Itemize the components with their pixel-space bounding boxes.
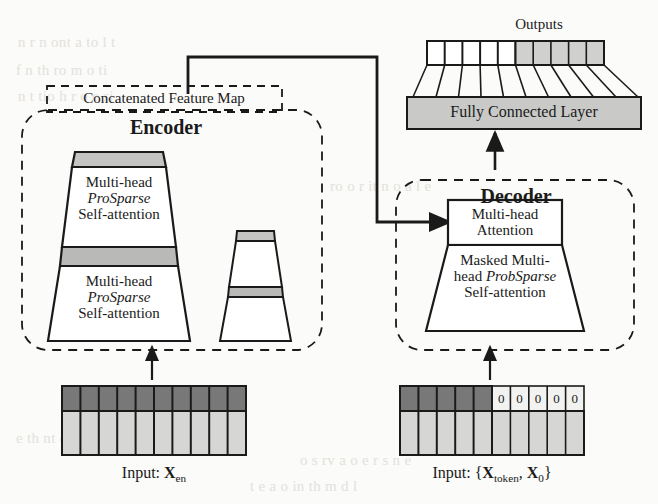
decoder-attention-line1: Multi-head [472, 206, 539, 222]
decoder-input-caption-var1: X [482, 464, 494, 481]
decoder-input-caption-prefix: Input: [432, 464, 474, 481]
decoder-input-zero-cell: 0 [529, 392, 547, 405]
decoder-attention-line2: Attention [472, 222, 539, 238]
diagram-vector-layer [0, 0, 658, 504]
decoder-attention-text: Multi-head Attention [472, 206, 539, 238]
decoder-masked-text: Masked Multi- head ProbSparse Self-atten… [454, 252, 556, 301]
encoder-block-1-text: Multi-head ProSparse Self-attention [78, 174, 160, 223]
encoder-input-caption: Input: Xen [122, 464, 186, 484]
encoder-input-grid [62, 386, 246, 455]
decoder-masked-line2-b: ProbSparse [486, 268, 556, 284]
outputs-label: Outputs [515, 16, 563, 32]
encoder-block-2-line3: Self-attention [78, 305, 160, 321]
decoder-input-zero-cell: 0 [547, 392, 565, 405]
figure-canvas: n r n ont a to l tf n th ro m o tin t ti… [0, 0, 658, 504]
encoder-input-caption-prefix: Input: [122, 464, 164, 481]
encoder-block-1-line2: ProSparse [78, 190, 160, 206]
decoder-input-zero-cell: 0 [492, 392, 510, 405]
outputs-row [427, 41, 604, 65]
decoder-input-zero-cell: 0 [566, 392, 584, 405]
concatenated-feature-map-label: Concatenated Feature Map [83, 90, 245, 106]
encoder-input-caption-var: X [164, 464, 176, 481]
decoder-masked-line3: Self-attention [454, 284, 556, 300]
connector-encoder-to-decoder [188, 57, 449, 222]
decoder-masked-line2-a: head [454, 268, 486, 284]
decoder-input-caption-sub1: token [494, 472, 519, 484]
encoder-block-2-line1: Multi-head [78, 273, 160, 289]
decoder-input-zero-cell: 0 [510, 392, 528, 405]
decoder-masked-line2: head ProbSparse [454, 268, 556, 284]
encoder-title: Encoder [130, 117, 202, 139]
decoder-input-caption: Input: {Xtoken, X0} [432, 464, 551, 484]
encoder-block-2-line2: ProSparse [78, 289, 160, 305]
decoder-input-caption-var2: X [527, 464, 539, 481]
decoder-input-caption-close: } [544, 464, 552, 481]
decoder-masked-line1: Masked Multi- [454, 252, 556, 268]
encoder-block-1-line3: Self-attention [78, 206, 160, 222]
encoder-small-stack [220, 231, 291, 341]
fully-connected-fan-lines [413, 65, 638, 97]
encoder-block-2-text: Multi-head ProSparse Self-attention [78, 273, 160, 322]
encoder-input-caption-sub: en [176, 472, 187, 484]
encoder-block-1-line1: Multi-head [78, 174, 160, 190]
fully-connected-layer-label: Fully Connected Layer [450, 103, 598, 120]
decoder-input-caption-open: { [475, 464, 483, 481]
decoder-title: Decoder [480, 186, 551, 208]
